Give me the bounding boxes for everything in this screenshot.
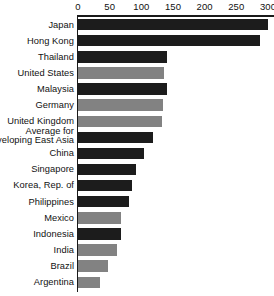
- bar-row: Indonesia: [0, 226, 274, 242]
- x-tick-300: 300: [260, 0, 274, 13]
- bar: [78, 277, 100, 288]
- bar-row: Argentina: [0, 275, 274, 291]
- bar: [78, 51, 167, 62]
- bar: [78, 148, 144, 159]
- x-tick-0: 0: [75, 0, 80, 13]
- bar: [78, 228, 121, 239]
- bar-row: Japan: [0, 17, 274, 33]
- bar-row: India: [0, 242, 274, 258]
- bar: [78, 180, 132, 191]
- x-tick-250: 250: [228, 0, 244, 13]
- category-label: Germany: [0, 100, 74, 110]
- bar: [78, 164, 136, 175]
- bar-row: Hong Kong: [0, 33, 274, 49]
- bar-row: Thailand: [0, 49, 274, 65]
- category-label: Thailand: [0, 52, 74, 62]
- x-tick-200: 200: [197, 0, 213, 13]
- category-label: Argentina: [0, 277, 74, 287]
- bar-chart: 050100150200250300 JapanHong KongThailan…: [0, 0, 274, 296]
- bar: [78, 132, 153, 143]
- category-label: Hong Kong: [0, 36, 74, 46]
- category-label: United States: [0, 68, 74, 78]
- bar-row: Singapore: [0, 162, 274, 178]
- bar: [78, 67, 164, 78]
- x-axis-tick-labels: 050100150200250300: [0, 0, 274, 14]
- category-label: Brazil: [0, 261, 74, 271]
- category-label: India: [0, 245, 74, 255]
- category-label: Average fordeveloping East Asia: [0, 127, 74, 146]
- bar: [78, 83, 167, 94]
- bar-row: Germany: [0, 97, 274, 113]
- x-tick-150: 150: [165, 0, 181, 13]
- category-label: Korea, Rep. of: [0, 180, 74, 190]
- bar: [78, 212, 121, 223]
- bar-rows: JapanHong KongThailandUnited StatesMalay…: [0, 17, 274, 291]
- bar-row: Mexico: [0, 210, 274, 226]
- bar: [78, 116, 162, 127]
- bar-row: Korea, Rep. of: [0, 178, 274, 194]
- bar: [78, 244, 117, 255]
- category-label: Mexico: [0, 213, 74, 223]
- bar-row: China: [0, 146, 274, 162]
- category-label: China: [0, 148, 74, 158]
- bar: [78, 99, 163, 110]
- category-label: United Kingdom: [0, 116, 74, 126]
- bar-row: Brazil: [0, 258, 274, 274]
- bar: [78, 260, 108, 271]
- bar-row: Philippines: [0, 194, 274, 210]
- bar: [78, 19, 268, 30]
- category-label: Philippines: [0, 197, 74, 207]
- category-label: Singapore: [0, 164, 74, 174]
- category-label: Indonesia: [0, 229, 74, 239]
- x-tick-50: 50: [104, 0, 115, 13]
- category-label: Japan: [0, 20, 74, 30]
- bar: [78, 196, 129, 207]
- x-tick-100: 100: [133, 0, 149, 13]
- category-label: Malaysia: [0, 84, 74, 94]
- bar-row: United States: [0, 65, 274, 81]
- bar: [78, 35, 260, 46]
- bar-row: Malaysia: [0, 81, 274, 97]
- bar-row: Average fordeveloping East Asia: [0, 130, 274, 146]
